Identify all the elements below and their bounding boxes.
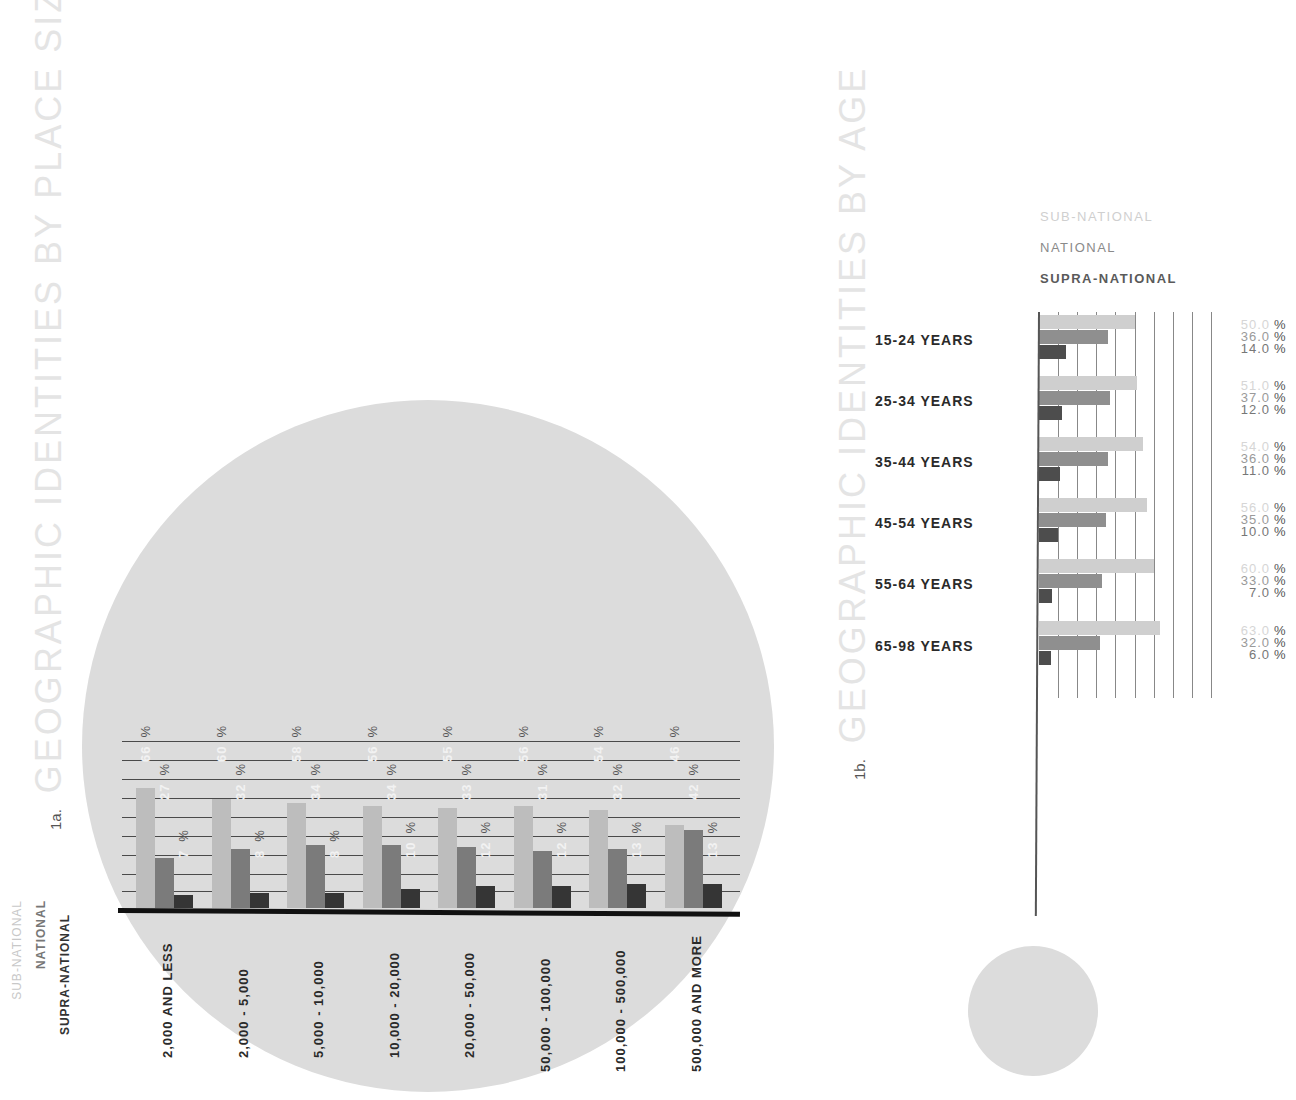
chart1-title: 1a.GEOGRAPHIC IDENTITIES BY PLACE SIZE xyxy=(28,0,70,830)
hbar-nat xyxy=(1039,330,1108,344)
hbar-nat xyxy=(1039,391,1110,405)
hbar-sup xyxy=(1039,528,1058,542)
hbar-sub xyxy=(1039,376,1137,390)
age-group-label: 55-64 YEARS xyxy=(875,576,1003,592)
pct-value: 11.0% xyxy=(1216,464,1296,477)
chart2-legend-national: NATIONAL xyxy=(1040,240,1116,255)
hbar-nat xyxy=(1039,574,1102,588)
chart1-title-text: GEOGRAPHIC IDENTITIES BY PLACE SIZE xyxy=(28,0,69,793)
age-group-label: 45-54 YEARS xyxy=(875,515,1003,531)
hbar-sup xyxy=(1039,406,1062,420)
background-circle xyxy=(82,400,774,1092)
chart2-gridline xyxy=(1211,312,1212,698)
chart2-title: 1b.GEOGRAPHIC IDENTITIES BY AGE xyxy=(832,66,874,780)
hbar-sub xyxy=(1039,437,1143,451)
hbar-sub xyxy=(1039,621,1160,635)
pct-value: 6.0% xyxy=(1216,648,1296,661)
hbar-sup xyxy=(1039,345,1066,359)
age-group-label: 15-24 YEARS xyxy=(875,332,1003,348)
chart2-title-text: GEOGRAPHIC IDENTITIES BY AGE xyxy=(832,66,873,743)
chart2-axis xyxy=(1035,312,1040,916)
age-group-label: 35-44 YEARS xyxy=(875,454,1003,470)
hbar-sub xyxy=(1039,498,1147,512)
hbar-sup xyxy=(1039,589,1052,603)
chart2-gridline xyxy=(1154,312,1155,698)
chart2-legend-sub-national: SUB-NATIONAL xyxy=(1040,209,1153,224)
chart2-figure-number: 1b. xyxy=(851,759,868,780)
chart2-gridline xyxy=(1173,312,1174,698)
pct-value: 12.0% xyxy=(1216,403,1296,416)
pct-value: 10.0% xyxy=(1216,525,1296,538)
age-group-label: 25-34 YEARS xyxy=(875,393,1003,409)
hbar-nat xyxy=(1039,452,1108,466)
chart2-legend-supra-national: SUPRA-NATIONAL xyxy=(1040,271,1177,286)
hbar-nat xyxy=(1039,513,1106,527)
chart1-figure-number: 1a. xyxy=(47,809,64,830)
chart2-gridline xyxy=(1192,312,1193,698)
chart1-legend-national: NATIONAL xyxy=(34,900,48,1040)
chart1-legend-sub-national: SUB-NATIONAL xyxy=(10,900,24,1040)
hbar-sub xyxy=(1039,315,1135,329)
pct-value: 7.0% xyxy=(1216,586,1296,599)
hbar-sup xyxy=(1039,651,1051,665)
hbar-nat xyxy=(1039,636,1100,650)
age-group-label: 65-98 YEARS xyxy=(875,638,1003,654)
hbar-sup xyxy=(1039,467,1060,481)
chart1-legend-supra-national: SUPRA-NATIONAL xyxy=(58,914,72,1054)
pct-value: 14.0% xyxy=(1216,342,1296,355)
small-circle xyxy=(968,946,1098,1076)
hbar-sub xyxy=(1039,559,1154,573)
